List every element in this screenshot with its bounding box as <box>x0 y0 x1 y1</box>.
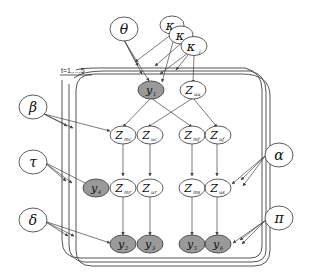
node-zuf: Z uf <box>205 126 231 144</box>
node-y1: y 1 <box>138 81 164 99</box>
zur-subscript: ur <box>151 189 157 195</box>
plate-label: t=1,...,5 <box>61 67 85 74</box>
graphical-model-diagram: t=1,...,5 <box>0 0 311 276</box>
y3-label: y <box>144 238 152 251</box>
node-alpha: α <box>265 143 293 167</box>
y5-label: y <box>186 238 194 251</box>
zuu-label: Z <box>184 84 193 97</box>
kappa-j-subscript: j <box>198 48 201 55</box>
zuc-label: Z <box>141 129 150 142</box>
node-delta: δ <box>19 208 47 232</box>
y2-subscript: 2 <box>124 245 128 251</box>
node-beta: β <box>19 95 47 119</box>
y4-subscript: 4 <box>97 189 101 195</box>
node-zuc: Z uc <box>137 126 163 144</box>
tau-label: τ <box>29 154 37 170</box>
node-zms: Z ms <box>179 179 205 197</box>
node-zus: Z us <box>205 179 231 197</box>
kappa-j-label: κ <box>186 39 196 54</box>
theta-label: θ <box>120 21 129 37</box>
node-pi: π <box>265 206 293 230</box>
zms-subscript: ms <box>193 189 201 195</box>
y6-label: y <box>212 238 220 251</box>
zur-label: Z <box>141 182 150 195</box>
node-zmf: Z mf <box>179 126 205 144</box>
node-tau: τ <box>19 150 47 174</box>
node-zmr: Z mr <box>110 179 136 197</box>
y4-label: y <box>90 182 98 195</box>
zmr-label: Z <box>114 182 123 195</box>
y1-subscript: 1 <box>153 91 156 97</box>
delta-label: δ <box>29 212 37 228</box>
y3-subscript: 3 <box>152 245 155 251</box>
zus-subscript: us <box>219 189 225 195</box>
y5-subscript: 5 <box>194 245 197 251</box>
beta-label: β <box>28 99 37 115</box>
node-kappa-j: κ j <box>181 37 207 56</box>
zuc-subscript: uc <box>151 136 157 142</box>
pi-label: π <box>273 210 284 226</box>
plate-middle <box>69 71 266 262</box>
alpha-label: α <box>274 147 284 163</box>
node-zuu: Z uu <box>180 81 206 99</box>
node-zur: Z ur <box>137 179 163 197</box>
zmf-subscript: mf <box>193 136 201 143</box>
zmc-subscript: mc <box>124 136 132 142</box>
zmf-label: Z <box>183 129 192 142</box>
node-y2: y 2 <box>110 235 136 253</box>
zmr-subscript: mr <box>124 189 132 195</box>
node-zmc: Z mc <box>110 126 136 144</box>
node-y5: y 5 <box>179 235 205 253</box>
plate-back <box>62 68 262 258</box>
zus-label: Z <box>209 182 218 195</box>
node-theta: θ <box>110 17 138 41</box>
zuf-label: Z <box>209 129 218 142</box>
node-y4: y 4 <box>83 179 109 197</box>
zms-label: Z <box>183 182 192 195</box>
node-y3: y 3 <box>137 235 163 253</box>
y2-label: y <box>117 238 125 251</box>
y1-label: y <box>145 84 153 97</box>
zuu-subscript: uu <box>194 91 200 97</box>
zmc-label: Z <box>114 129 123 142</box>
node-y6: y 6 <box>205 235 231 253</box>
plate-stack <box>62 68 270 266</box>
